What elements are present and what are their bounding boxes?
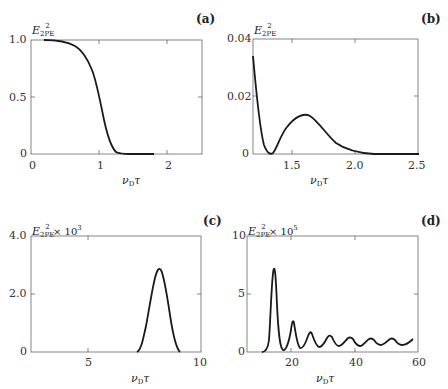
curve-b <box>253 56 419 154</box>
panel-a: (a) E2PE2 1.0 0.5 0 0 1 2 νDτ <box>0 0 224 190</box>
panel-c: (c) E2PE2 × 103 4.0 2.0 0 5 10 νDτ <box>0 190 224 389</box>
plot-area-b <box>224 0 448 190</box>
curve-d <box>262 269 413 352</box>
plot-area-c <box>0 190 224 389</box>
plot-area-a <box>0 0 224 190</box>
curve-c <box>137 269 180 352</box>
curve-a <box>44 40 154 154</box>
plot-area-d <box>224 190 448 389</box>
panel-d: (d) E2PE2 × 105 10 5 0 20 40 60 νDτ <box>224 190 448 389</box>
panel-b: (b) E2PE2 0.04 0.02 0 1.5 2.0 2.5 νDτ <box>224 0 448 190</box>
